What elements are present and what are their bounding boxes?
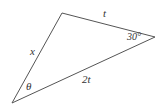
triangle-diagram: x t 2t 30° θ — [0, 0, 166, 111]
side-label-top: t — [103, 7, 107, 19]
triangle-shape — [12, 13, 155, 103]
angle-label-bottom-left: θ — [26, 80, 32, 92]
side-label-left: x — [29, 45, 35, 57]
angle-label-right: 30° — [126, 31, 141, 42]
side-label-bottom: 2t — [82, 73, 92, 85]
